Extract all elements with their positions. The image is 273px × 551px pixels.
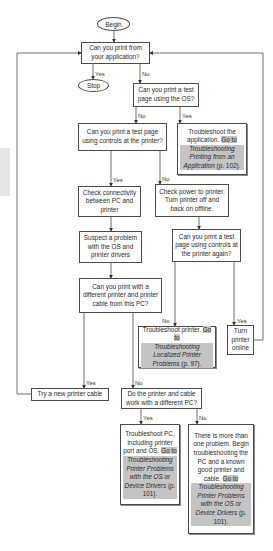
ts-pc-reference[interactable]: Troubleshooting Printer Problems with th…	[125, 456, 174, 489]
ts-printer-text: Troubleshoot printer.	[143, 326, 201, 333]
question-different-pc: Do the printer and cable work with a dif…	[121, 388, 202, 409]
multi-goto: Go to	[223, 475, 239, 482]
check-power-box: Check power to printer. Turn printer off…	[155, 184, 229, 217]
ts-app-goto: Go to	[221, 136, 237, 143]
question-print-controls: Can you print a test page using controls…	[78, 123, 167, 151]
label-no: No	[135, 380, 143, 386]
multiple-problems-box: There is more than one problem. Begin tr…	[188, 424, 254, 534]
stop-node: Stop	[78, 79, 109, 92]
troubleshoot-application-box: Troubleshoot the application. Go to Trou…	[177, 123, 247, 175]
label-yes: Yes	[143, 415, 153, 421]
label-yes: Yes	[113, 177, 123, 183]
label-yes: Yes	[182, 113, 192, 119]
label-no: No	[142, 71, 150, 77]
ts-app-page: (p. 102).	[217, 162, 241, 169]
label-no: No	[162, 176, 170, 182]
suspect-os-drivers-box: Suspect a problem with the OS and printe…	[79, 231, 142, 263]
multi-text: There is more than one problem. Begin tr…	[193, 432, 248, 482]
ts-printer-page: (p. 97).	[181, 360, 201, 367]
question-print-using-os: Can you print a test page using the OS?	[133, 83, 199, 107]
question-print-from-app: Can you print from your application?	[81, 42, 150, 64]
troubleshoot-pc-box: Troubleshoot PC, including printer port …	[120, 424, 180, 505]
question-different-printer: Can you print with a different printer a…	[79, 278, 162, 313]
troubleshoot-printer-box: Troubleshoot printer. Go to Troubleshoot…	[138, 326, 216, 368]
label-no: No	[199, 415, 207, 421]
multi-reference[interactable]: Troubleshooting Printer Problems with th…	[196, 483, 245, 516]
label-yes: Yes	[95, 71, 105, 77]
label-no: No	[138, 113, 146, 119]
try-new-cable-box: Try a new printer cable	[31, 388, 109, 401]
label-yes: Yes	[237, 318, 247, 324]
ts-pc-goto: Go to	[161, 447, 177, 454]
label-no: No	[162, 318, 170, 324]
question-print-controls-again: Can you print a test page using controls…	[172, 229, 241, 262]
check-connectivity-box: Check connectivity between PC and printe…	[78, 186, 141, 217]
begin-node: Begin	[97, 17, 130, 31]
turn-printer-online-box: Turn printer online	[227, 325, 254, 355]
label-yes: Yes	[86, 380, 96, 386]
